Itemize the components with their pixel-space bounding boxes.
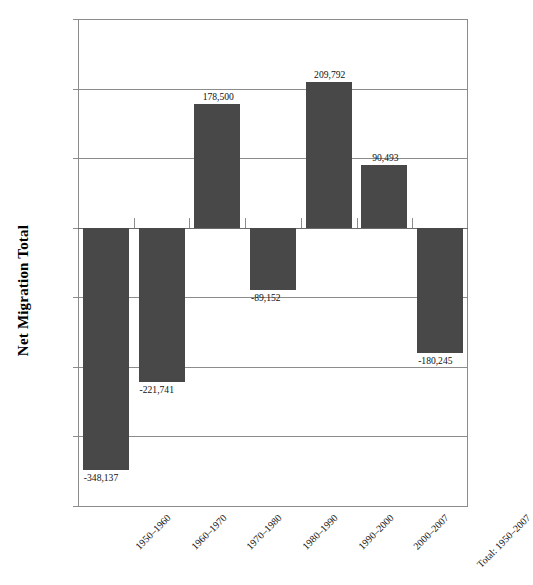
bar[interactable]: [250, 228, 296, 290]
y-tick-mark: [73, 89, 78, 90]
category-tick: [78, 218, 79, 228]
bar-value-label: -348,137: [84, 472, 118, 483]
plot-area: 300,000200,000100,0000-100,000-200,000-3…: [78, 19, 468, 506]
x-axis-label: 1970–1980: [244, 512, 284, 552]
y-tick-mark: [73, 436, 78, 437]
bar[interactable]: [139, 228, 185, 382]
y-axis-line: [78, 19, 79, 506]
y-tick-mark: [73, 228, 78, 229]
bar[interactable]: [361, 165, 407, 228]
x-axis-label: Total: 1950–2007: [475, 512, 533, 570]
bar-value-label: -221,741: [140, 384, 174, 395]
category-tick: [467, 218, 468, 228]
bar[interactable]: [194, 104, 240, 228]
gridline: [78, 19, 468, 20]
gridline: [78, 89, 468, 90]
plot-right-border: [467, 19, 468, 506]
x-axis-label: 2000–2007: [412, 512, 452, 552]
x-axis-label: 1990–2000: [356, 512, 396, 552]
bar[interactable]: [306, 82, 352, 228]
bar-value-label: 90,493: [360, 152, 410, 163]
y-tick-mark: [73, 19, 78, 20]
gridline: [78, 436, 468, 437]
y-tick-mark: [73, 367, 78, 368]
bar[interactable]: [83, 228, 129, 470]
category-tick: [189, 218, 190, 228]
category-tick: [301, 218, 302, 228]
category-tick: [245, 218, 246, 228]
x-axis-label: 1950–1960: [133, 512, 173, 552]
bar[interactable]: [417, 228, 463, 353]
y-tick-mark: [73, 506, 78, 507]
y-tick-mark: [73, 297, 78, 298]
x-axis-label: 1960–1970: [189, 512, 229, 552]
y-tick-mark: [73, 158, 78, 159]
x-axis-label: 1980–1990: [300, 512, 340, 552]
gridline: [78, 367, 468, 368]
category-tick: [134, 218, 135, 228]
bar-value-label: -180,245: [418, 355, 452, 366]
category-tick: [357, 218, 358, 228]
bar-value-label: 178,500: [193, 91, 243, 102]
bar-value-label: -89,152: [251, 292, 281, 303]
y-axis-title: Net Migration Total: [15, 196, 32, 386]
gridline: [78, 506, 468, 507]
bar-value-label: 209,792: [305, 69, 355, 80]
category-tick: [412, 218, 413, 228]
